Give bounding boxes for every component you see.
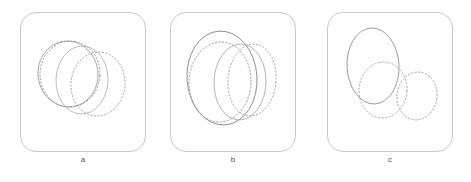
figure-root: a b c xyxy=(0,0,471,182)
ellipse-b3-solid xyxy=(213,43,268,121)
ellipse-b4-dotted xyxy=(225,42,279,118)
panel-a-plot xyxy=(20,12,146,152)
ellipse-a3-dotted xyxy=(68,49,128,118)
ellipse-b2-dotted xyxy=(187,40,253,123)
panel-b-plot xyxy=(170,12,296,152)
panel-b xyxy=(170,12,296,152)
panel-c xyxy=(327,12,453,152)
panel-a xyxy=(20,12,146,152)
panel-label-a: a xyxy=(20,155,146,164)
ellipse-c2-dotted xyxy=(357,60,409,119)
ellipse-b1-solid xyxy=(184,29,260,128)
ellipse-c1-solid xyxy=(345,27,401,106)
ellipse-c3-dotted xyxy=(394,69,440,122)
panel-c-plot xyxy=(327,12,453,152)
panel-label-b: b xyxy=(170,155,296,164)
panel-label-c: c xyxy=(327,155,453,164)
